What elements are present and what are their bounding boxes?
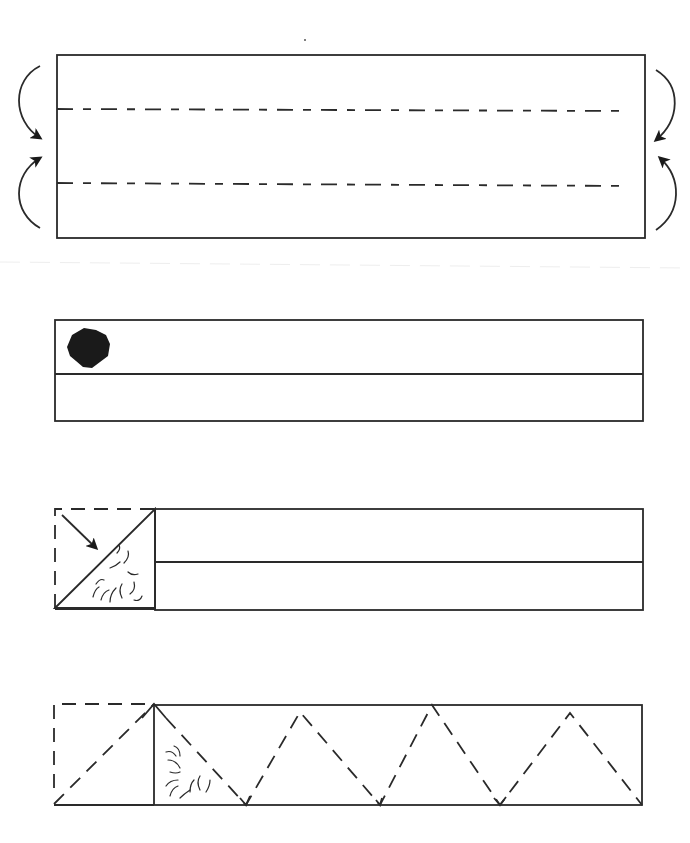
step-3-strip xyxy=(155,509,643,610)
step-4 xyxy=(54,704,642,805)
left-fold-up-arrow-icon xyxy=(19,158,40,228)
step-4-strip xyxy=(154,705,642,805)
step-3-fold-arrow-icon xyxy=(62,515,96,548)
right-fold-up-arrow-icon xyxy=(656,158,676,230)
step-4-original-corner-outline xyxy=(54,704,154,788)
faint-separator xyxy=(0,262,690,268)
tick-mark-icon xyxy=(240,796,250,805)
step-1-fold-line-top xyxy=(57,109,628,111)
texture-squiggles-icon xyxy=(166,746,210,798)
step-2-strip xyxy=(55,320,643,421)
step-4-zigzag-fold-lines xyxy=(166,705,642,805)
blot-mark-icon xyxy=(67,328,110,368)
stray-dot xyxy=(304,39,306,41)
tick-mark-icon xyxy=(494,797,506,805)
right-fold-down-arrow-icon xyxy=(656,70,675,140)
left-fold-down-arrow-icon xyxy=(19,66,40,138)
folding-diagram xyxy=(0,0,690,843)
step-3 xyxy=(55,509,643,610)
step-1-strip xyxy=(57,55,645,238)
texture-squiggles-icon xyxy=(93,545,142,602)
step-2 xyxy=(55,320,643,421)
step-1-fold-line-bottom xyxy=(57,183,628,186)
step-4-first-diagonal xyxy=(54,704,154,804)
tick-mark-icon xyxy=(376,798,382,805)
step-1 xyxy=(19,55,676,238)
